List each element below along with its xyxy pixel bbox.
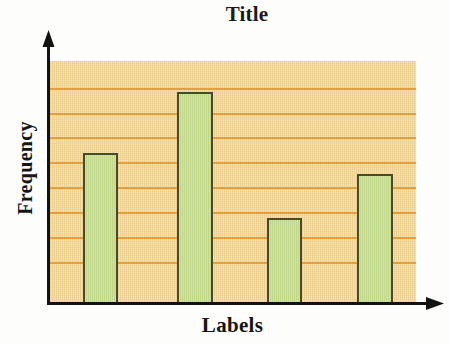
x-axis-label: Labels bbox=[49, 313, 416, 338]
bar bbox=[267, 218, 302, 303]
y-axis-label-container: Frequency bbox=[8, 85, 42, 250]
y-axis-arrowhead bbox=[43, 30, 55, 47]
y-axis-label: Frequency bbox=[14, 121, 37, 214]
bar bbox=[177, 92, 213, 303]
gridline bbox=[49, 88, 416, 90]
bar bbox=[357, 174, 393, 303]
chart-title: Title bbox=[0, 2, 450, 27]
gridline bbox=[49, 113, 416, 115]
gridline bbox=[49, 137, 416, 139]
x-axis-arrowhead bbox=[426, 297, 444, 310]
bar-chart-figure: Title Frequency Labels bbox=[0, 0, 450, 345]
plot-area bbox=[49, 61, 416, 303]
bar bbox=[83, 153, 118, 303]
